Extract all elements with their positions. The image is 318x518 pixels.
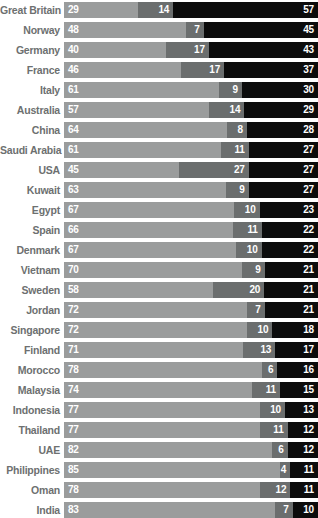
stacked-bar: 85411 — [64, 462, 318, 478]
chart-row: Kuwait63927 — [0, 182, 318, 198]
bar-segment-1: 64 — [64, 122, 227, 138]
bar-segment-2: 11 — [252, 382, 280, 398]
segment-value: 66 — [64, 222, 79, 238]
segment-value: 13 — [261, 342, 276, 358]
stacked-bar: 63927 — [64, 182, 318, 198]
bar-segment-1: 82 — [64, 442, 272, 458]
chart-row: Great Britain291457 — [0, 2, 318, 18]
segment-value: 20 — [249, 282, 264, 298]
segment-value: 21 — [303, 302, 318, 318]
row-label-germany: Germany — [0, 42, 64, 58]
bar-segment-1: 40 — [64, 42, 166, 58]
bar-segment-2: 9 — [226, 182, 249, 198]
segment-value: 10 — [247, 242, 262, 258]
bar-segment-1: 57 — [64, 102, 209, 118]
segment-value: 61 — [64, 142, 79, 158]
row-label-italy: Italy — [0, 82, 64, 98]
bar-segment-3: 30 — [242, 82, 318, 98]
row-label-kuwait: Kuwait — [0, 182, 64, 198]
bar-segment-1: 77 — [64, 422, 260, 438]
stacked-bar: 741115 — [64, 382, 318, 398]
row-label-australia: Australia — [0, 102, 64, 118]
chart-row: Denmark671022 — [0, 242, 318, 258]
bar-segment-2: 11 — [233, 222, 261, 238]
bar-segment-2: 7 — [186, 22, 204, 38]
segment-value: 45 — [303, 22, 318, 38]
segment-value: 70 — [64, 262, 79, 278]
stacked-bar: 461737 — [64, 62, 318, 78]
bar-segment-3: 18 — [272, 322, 318, 338]
bar-segment-2: 13 — [243, 342, 276, 358]
segment-value: 10 — [245, 202, 260, 218]
segment-value: 17 — [194, 42, 209, 58]
bar-segment-2: 6 — [262, 362, 277, 378]
bar-segment-3: 45 — [204, 22, 318, 38]
segment-value: 22 — [303, 242, 318, 258]
bar-segment-1: 78 — [64, 482, 260, 498]
segment-value: 74 — [64, 382, 79, 398]
chart-row: Norway48745 — [0, 22, 318, 38]
row-label-indonesia: Indonesia — [0, 402, 64, 418]
stacked-bar: 771013 — [64, 402, 318, 418]
segment-value: 17 — [303, 342, 318, 358]
bar-segment-2: 10 — [247, 322, 272, 338]
segment-value: 16 — [303, 362, 318, 378]
segment-value: 29 — [64, 2, 79, 18]
bar-segment-1: 67 — [64, 202, 234, 218]
bar-segment-2: 14 — [209, 102, 245, 118]
bar-segment-1: 58 — [64, 282, 213, 298]
chart-row: Finland711317 — [0, 342, 318, 358]
segment-value: 11 — [247, 222, 261, 238]
segment-value: 45 — [64, 162, 79, 178]
chart-row: Spain661122 — [0, 222, 318, 238]
bar-segment-2: 7 — [247, 302, 265, 318]
segment-value: 12 — [276, 482, 291, 498]
segment-value: 15 — [303, 382, 318, 398]
stacked-bar: 83710 — [64, 502, 318, 518]
segment-value: 48 — [64, 22, 79, 38]
row-label-saudi-arabia: Saudi Arabia — [0, 142, 64, 158]
row-label-finland: Finland — [0, 342, 64, 358]
chart-row: Philippines85411 — [0, 462, 318, 478]
row-label-china: China — [0, 122, 64, 138]
bar-segment-1: 70 — [64, 262, 242, 278]
chart-row: UAE82612 — [0, 442, 318, 458]
segment-value: 27 — [303, 182, 318, 198]
bar-segment-3: 27 — [249, 162, 318, 178]
bar-segment-3: 16 — [277, 362, 318, 378]
bar-segment-2: 11 — [221, 142, 249, 158]
row-label-jordan: Jordan — [0, 302, 64, 318]
row-label-oman: Oman — [0, 482, 64, 498]
segment-value: 61 — [64, 82, 79, 98]
segment-value: 77 — [64, 422, 79, 438]
segment-value: 64 — [64, 122, 79, 138]
bar-segment-1: 61 — [64, 142, 221, 158]
bar-segment-2: 11 — [260, 422, 288, 438]
stacked-bar: 64828 — [64, 122, 318, 138]
bar-segment-3: 23 — [260, 202, 318, 218]
bar-segment-3: 11 — [290, 482, 318, 498]
stacked-bar: 48745 — [64, 22, 318, 38]
row-label-france: France — [0, 62, 64, 78]
bar-segment-1: 61 — [64, 82, 219, 98]
bar-segment-2: 4 — [280, 462, 290, 478]
segment-value: 78 — [64, 362, 79, 378]
bar-segment-3: 27 — [249, 182, 318, 198]
row-label-norway: Norway — [0, 22, 64, 38]
stacked-bar: 711317 — [64, 342, 318, 358]
bar-segment-2: 14 — [138, 2, 174, 18]
chart-row: France461737 — [0, 62, 318, 78]
bar-segment-2: 17 — [166, 42, 209, 58]
bar-segment-3: 22 — [262, 222, 318, 238]
segment-value: 6 — [278, 442, 287, 458]
bar-segment-3: 57 — [173, 2, 318, 18]
bar-segment-3: 12 — [288, 442, 318, 458]
segment-value: 83 — [64, 502, 79, 518]
bar-segment-3: 15 — [280, 382, 318, 398]
segment-value: 72 — [64, 302, 79, 318]
segment-value: 23 — [303, 202, 318, 218]
row-label-vietnam: Vietnam — [0, 262, 64, 278]
segment-value: 58 — [64, 282, 79, 298]
bar-segment-3: 37 — [224, 62, 318, 78]
stacked-bar: 452727 — [64, 162, 318, 178]
